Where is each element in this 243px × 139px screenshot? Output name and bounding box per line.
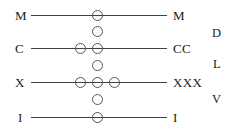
bead-row-x-1[interactable] (75, 77, 86, 88)
upper-bead-d[interactable] (92, 26, 103, 37)
side-label-v: V (212, 93, 221, 106)
abacus-diagram: MCXIMCCXXXIDLV (0, 0, 243, 139)
bead-row-i-1[interactable] (92, 112, 103, 123)
row-label-left-c-1: C (15, 42, 24, 55)
row-label-left-x-2: X (15, 76, 25, 89)
side-label-l: L (213, 58, 221, 71)
upper-bead-l[interactable] (92, 60, 103, 71)
bead-row-x-2[interactable] (92, 77, 103, 88)
bead-row-c-2[interactable] (92, 43, 103, 54)
row-label-right-i-3: I (173, 111, 178, 124)
row-label-right-m-0: M (173, 9, 185, 22)
upper-bead-v[interactable] (92, 94, 103, 105)
bead-row-c-1[interactable] (75, 43, 86, 54)
bead-row-x-3[interactable] (109, 77, 120, 88)
row-label-right-xxx-2: XXX (173, 76, 202, 89)
side-label-d: D (212, 27, 221, 40)
row-label-left-m-0: M (15, 9, 27, 22)
bead-row-m-1[interactable] (92, 10, 103, 21)
row-label-right-cc-1: CC (173, 42, 191, 55)
row-label-left-i-3: I (18, 111, 23, 124)
